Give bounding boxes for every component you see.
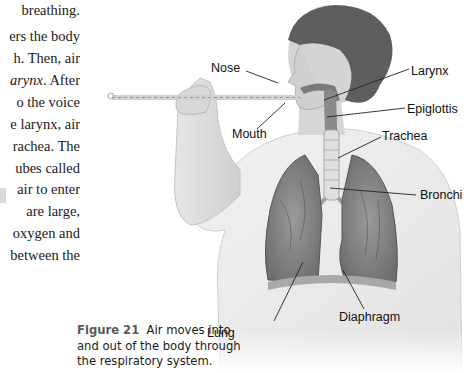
label-mouth: Mouth: [232, 127, 267, 141]
figure-number: Figure 21: [77, 323, 139, 337]
label-bronchi: Bronchi: [420, 188, 462, 202]
label-diaphragm: Diaphragm: [339, 310, 400, 324]
arm: [175, 78, 240, 225]
textbook-page: breathing. ers the body h. Then, air ary…: [0, 0, 468, 373]
label-nose: Nose: [211, 61, 240, 75]
label-larynx: Larynx: [411, 64, 449, 78]
respiratory-system-figure: Nose Mouth Larynx Epiglottis Trachea Bro…: [0, 0, 468, 373]
label-trachea: Trachea: [382, 129, 427, 143]
figure-caption: Figure 21 Air moves into and out of the …: [77, 323, 247, 370]
label-epiglottis: Epiglottis: [407, 102, 458, 116]
